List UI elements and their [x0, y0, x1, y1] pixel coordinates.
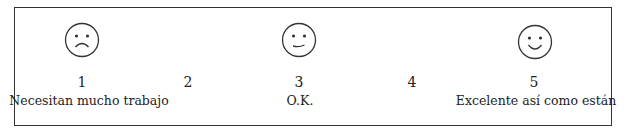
- scale-label-3: O.K.: [287, 93, 314, 108]
- happy-face-icon: [517, 24, 553, 60]
- scale-value-4: 4: [408, 74, 417, 90]
- scale-value-3: 3: [295, 74, 304, 90]
- sad-face-icon: [64, 22, 100, 58]
- neutral-face-icon: [281, 22, 317, 58]
- scale-value-5: 5: [530, 74, 539, 90]
- scale-label-5: Excelente así como están: [456, 93, 616, 108]
- scale-label-1: Necesitan mucho trabajo: [9, 93, 168, 108]
- scale-value-1: 1: [78, 74, 87, 90]
- scale-value-2: 2: [184, 74, 193, 90]
